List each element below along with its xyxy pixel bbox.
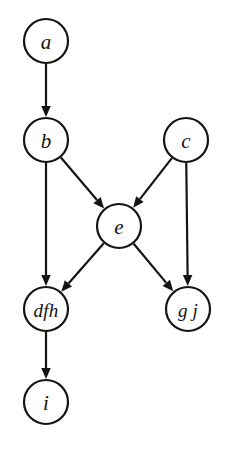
node-label: g j <box>178 300 198 321</box>
edge-c-to-e <box>133 158 172 208</box>
edge-c-to-gj <box>183 163 193 286</box>
edge-b-to-dfh <box>41 163 51 286</box>
arrowhead-icon <box>41 106 51 117</box>
graph-diagram: abcedfhg ji <box>0 0 226 452</box>
edge-line <box>61 158 97 201</box>
node-label: c <box>181 129 191 153</box>
node-label: b <box>41 129 52 153</box>
node-label: e <box>114 215 123 239</box>
graph-canvas: abcedfhg ji <box>0 0 226 452</box>
edge-a-to-b <box>41 64 51 117</box>
node-c[interactable]: c <box>164 118 208 162</box>
arrowhead-icon <box>41 275 51 286</box>
node-label: a <box>41 30 52 54</box>
node-e[interactable]: e <box>97 204 141 248</box>
edge-line <box>68 243 103 283</box>
edge-line <box>186 163 187 275</box>
node-dfh[interactable]: dfh <box>24 287 68 331</box>
edge-b-to-e <box>61 158 104 209</box>
nodes-layer: abcedfhg ji <box>24 19 210 424</box>
edge-e-to-dfh <box>61 243 104 291</box>
edge-e-to-gj <box>134 244 174 292</box>
node-label: i <box>43 391 49 415</box>
arrowhead-icon <box>183 275 193 286</box>
node-b[interactable]: b <box>24 118 68 162</box>
node-i[interactable]: i <box>24 380 68 424</box>
edge-line <box>134 244 167 283</box>
node-label: dfh <box>34 300 59 321</box>
node-gj[interactable]: g j <box>166 287 210 331</box>
arrowhead-icon <box>41 368 51 379</box>
node-a[interactable]: a <box>24 19 68 63</box>
edge-dfh-to-i <box>41 332 51 379</box>
edge-line <box>140 158 172 199</box>
